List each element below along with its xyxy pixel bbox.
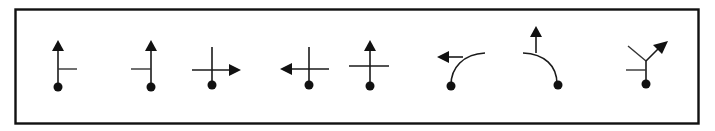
arrow-up-icon xyxy=(364,40,376,51)
origin-dot-icon xyxy=(208,81,217,90)
arrow-up-icon xyxy=(145,40,157,51)
symbol-bear-left-curve xyxy=(437,51,485,91)
origin-dot-icon xyxy=(147,83,156,92)
origin-dot-icon xyxy=(366,82,375,91)
origin-dot-icon xyxy=(554,81,563,90)
symbol-curve-straight-exit xyxy=(523,26,563,90)
symbol-bear-right-fork xyxy=(626,41,668,89)
arrow-left-icon xyxy=(437,51,449,63)
maneuver-symbols-diagram xyxy=(0,0,715,131)
origin-dot-icon xyxy=(642,80,651,89)
origin-dot-icon xyxy=(447,82,456,91)
symbol-left-turn-crossroads xyxy=(280,47,329,90)
origin-dot-icon xyxy=(54,83,63,92)
origin-dot-icon xyxy=(305,81,314,90)
symbol-straight-right-side-road xyxy=(52,40,77,92)
arrow-left-icon xyxy=(280,63,292,75)
symbol-straight-left-side-road xyxy=(131,40,157,92)
symbol-right-turn-crossroads xyxy=(192,47,241,90)
symbol-straight-through-crossroads xyxy=(349,40,389,91)
arrow-up-icon xyxy=(52,40,64,51)
arrow-up-icon xyxy=(530,26,542,37)
arrow-right-icon xyxy=(229,64,241,76)
